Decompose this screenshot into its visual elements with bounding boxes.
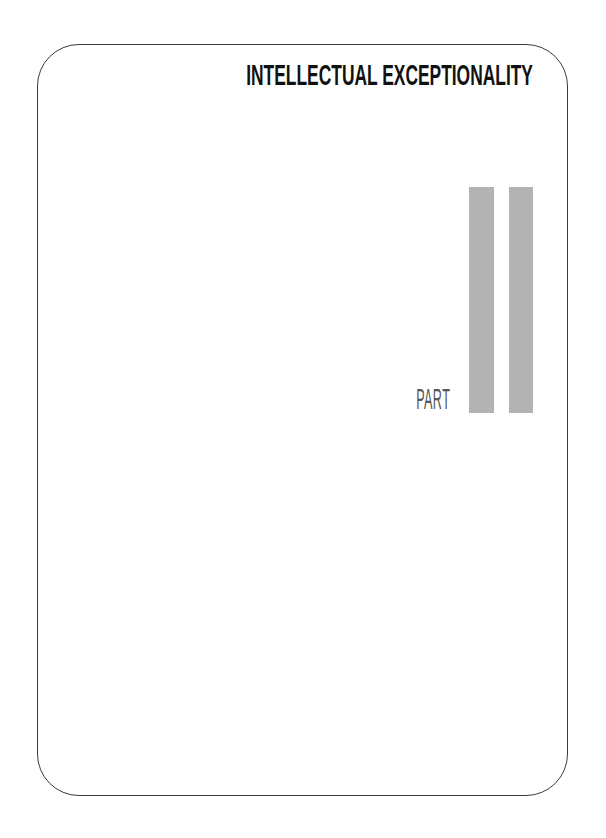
page-frame — [37, 44, 568, 796]
roman-numeral-bar-1 — [469, 187, 494, 413]
section-title: INTELLECTUAL EXCEPTIONALITY — [246, 60, 533, 90]
roman-numeral-bar-2 — [509, 187, 533, 413]
part-label: PART — [416, 385, 450, 413]
